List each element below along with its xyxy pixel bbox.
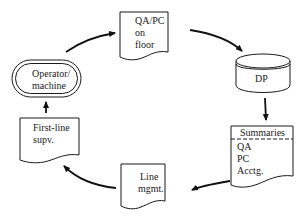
node-summaries: Summaries QA PC Acctg. <box>231 126 293 187</box>
node-qapc-label-1: QA/PC <box>135 15 165 26</box>
arrow-line-mgmt-to-first-line <box>64 166 116 188</box>
node-line-mgmt-label-2: mgmt. <box>138 183 164 194</box>
node-operator-machine: Operator/ machine <box>12 60 81 97</box>
arrow-operator-to-qapc <box>66 33 115 52</box>
node-dp: DP <box>236 54 290 93</box>
node-summaries-item-pc: PC <box>237 153 250 164</box>
node-line-mgmt: Line mgmt. <box>121 164 165 209</box>
node-summaries-item-acctg: Acctg. <box>237 165 263 176</box>
node-qapc-on-floor: QA/PC on floor <box>120 12 168 60</box>
node-summaries-header: Summaries <box>240 127 285 138</box>
node-operator-label-2: machine <box>32 80 66 91</box>
node-summaries-item-qa: QA <box>237 141 252 152</box>
node-operator-label-1: Operator/ <box>32 68 71 79</box>
node-dp-label: DP <box>255 73 268 84</box>
arrow-summaries-to-line-mgmt <box>192 181 230 190</box>
node-qapc-label-2: on <box>135 27 145 38</box>
arrow-dp-to-summaries <box>265 98 266 120</box>
arrow-qapc-to-dp <box>190 30 242 51</box>
node-first-line-label-2: supv. <box>33 134 54 145</box>
node-line-mgmt-label-1: Line <box>140 171 159 182</box>
node-first-line-supv: First-line supv. <box>20 118 79 163</box>
node-qapc-label-3: floor <box>135 39 155 50</box>
node-first-line-label-1: First-line <box>33 122 70 133</box>
flow-diagram: Operator/ machine QA/PC on floor DP Summ… <box>0 0 305 217</box>
